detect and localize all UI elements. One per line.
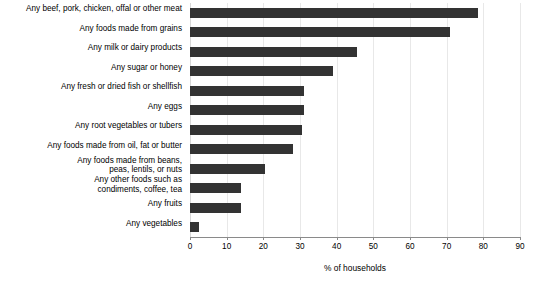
bar	[190, 47, 357, 57]
tick-mark-90	[520, 237, 521, 240]
category-label: Any fresh or dried fish or shellfish	[0, 82, 182, 92]
category-label: Any foods made from grains	[0, 24, 182, 34]
bar-fill	[190, 86, 304, 96]
x-tick-label: 10	[222, 241, 231, 252]
tick-mark-10	[227, 237, 228, 240]
x-tick-label: 30	[295, 241, 304, 252]
bar	[190, 27, 450, 37]
bar	[190, 222, 199, 232]
category-label: Any sugar or honey	[0, 63, 182, 73]
bar	[190, 8, 478, 18]
category-label: Any milk or dairy products	[0, 43, 182, 53]
bar-fill	[190, 8, 478, 18]
gridline-50	[373, 3, 374, 237]
category-label-column: Any beef, pork, chicken, offal or other …	[0, 0, 186, 240]
gridline-90	[520, 3, 521, 237]
x-axis-title: % of households	[190, 263, 520, 273]
bar	[190, 66, 333, 76]
x-tick-label: 0	[188, 241, 193, 252]
bar-fill	[190, 183, 241, 193]
tick-mark-0	[190, 237, 191, 240]
gridline-30	[300, 3, 301, 237]
gridline-70	[447, 3, 448, 237]
bar	[190, 144, 293, 154]
gridline-80	[483, 3, 484, 237]
gridline-20	[263, 3, 264, 237]
tick-mark-40	[337, 237, 338, 240]
bar-chart: Any beef, pork, chicken, offal or other …	[0, 0, 540, 286]
bar	[190, 183, 241, 193]
plot-area	[190, 3, 520, 237]
tick-mark-30	[300, 237, 301, 240]
gridline-40	[337, 3, 338, 237]
bar	[190, 125, 302, 135]
x-tick-label: 20	[259, 241, 268, 252]
bar-fill	[190, 105, 304, 115]
bar	[190, 203, 241, 213]
x-tick-label: 40	[332, 241, 341, 252]
bar-fill	[190, 222, 199, 232]
x-tick-label: 50	[369, 241, 378, 252]
category-label: Any root vegetables or tubers	[0, 121, 182, 131]
bar-fill	[190, 125, 302, 135]
bar-fill	[190, 164, 265, 174]
tick-mark-20	[263, 237, 264, 240]
category-label: Any foods made from beans, peas, lentils…	[0, 156, 182, 175]
category-label: Any vegetables	[0, 219, 182, 229]
bar	[190, 86, 304, 96]
category-label: Any other foods such as condiments, coff…	[0, 175, 182, 194]
tick-mark-60	[410, 237, 411, 240]
bar-fill	[190, 47, 357, 57]
bar	[190, 105, 304, 115]
bar	[190, 164, 265, 174]
bar-fill	[190, 66, 333, 76]
category-label: Any fruits	[0, 199, 182, 209]
tick-mark-50	[373, 237, 374, 240]
x-axis-tick-labels: 0102030405060708090	[190, 241, 520, 255]
gridline-60	[410, 3, 411, 237]
category-label: Any beef, pork, chicken, offal or other …	[0, 4, 182, 14]
x-tick-label: 70	[442, 241, 451, 252]
category-label: Any eggs	[0, 102, 182, 112]
tick-mark-80	[483, 237, 484, 240]
tick-mark-70	[447, 237, 448, 240]
category-label: Any foods made from oil, fat or butter	[0, 141, 182, 151]
x-axis-line	[190, 237, 521, 238]
bar-fill	[190, 144, 293, 154]
bar-fill	[190, 27, 450, 37]
bar-fill	[190, 203, 241, 213]
x-tick-label: 80	[479, 241, 488, 252]
x-tick-label: 90	[515, 241, 524, 252]
x-tick-label: 60	[405, 241, 414, 252]
